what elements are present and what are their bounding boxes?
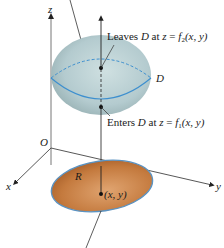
solid-D-label: D [155,72,164,84]
region-R-label: R [74,170,82,182]
region-R [48,154,156,218]
leaves-annotation: Leaves D at z = f2(x, y) [107,30,208,44]
xy-point-label: (x, y) [104,188,127,201]
origin-label: O [40,136,48,148]
enters-annotation: Enters D at z = f1(x, y) [107,116,205,130]
triple-integral-diagram: z x y O D Leaves D at z = f2(x, y) Enter… [0,0,224,248]
z-axis-label: z [47,3,53,15]
y-axis-label: y [215,180,221,192]
pointer-line-bottom [86,211,101,248]
x-axis [15,148,51,183]
xy-point [99,192,103,196]
x-axis-label: x [5,180,11,192]
